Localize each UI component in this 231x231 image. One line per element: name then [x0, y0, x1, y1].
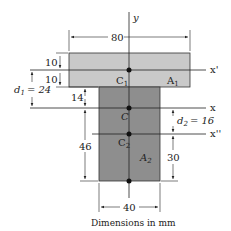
x-double-prime-axis-label: x''	[210, 128, 221, 139]
y-axis-label: y	[132, 12, 139, 23]
c-label: C	[121, 111, 129, 122]
bottom-dot	[127, 179, 132, 184]
c2-to-bottom-label: 30	[167, 152, 180, 163]
c-to-bottom-label: 46	[79, 141, 92, 152]
x-prime-axis-label: x'	[210, 64, 218, 75]
flange-top-half-label: 10	[45, 57, 58, 68]
x-axis-label: x	[210, 102, 216, 113]
web-width-label: 40	[123, 202, 136, 213]
d1-label: d1= 24	[14, 84, 51, 97]
caption: Dimensions in mm	[91, 218, 176, 228]
d2-label: d2= 16	[177, 115, 215, 128]
flange-width-label: 80	[111, 32, 124, 43]
web-top-to-c-label: 14	[71, 92, 84, 103]
centroid-c2-dot	[127, 132, 132, 137]
t-section-diagram: y x' x x'' C1 A1 C C2 A2 80 10 10 d1= 24…	[0, 0, 231, 231]
diagram-canvas: y x' x x'' C1 A1 C C2 A2 80 10 10 d1= 24…	[0, 0, 231, 231]
centroid-c-dot	[127, 106, 132, 111]
centroid-c1-dot	[127, 68, 132, 73]
